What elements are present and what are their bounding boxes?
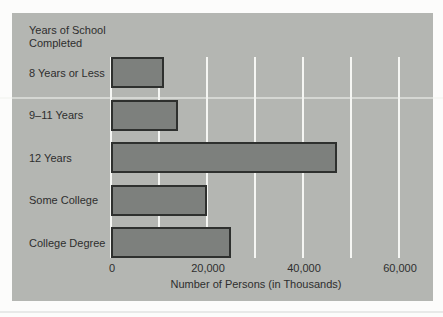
- scan-artifact-line: [0, 311, 443, 313]
- x-tick-label: 20,000: [191, 262, 225, 274]
- x-tick-label: 0: [109, 262, 115, 274]
- category-label: Some College: [29, 194, 98, 206]
- chart-figure: Years of School Completed Number of Pers…: [0, 0, 443, 317]
- plot-area: [111, 57, 401, 258]
- category-label: 12 Years: [29, 152, 72, 164]
- bar: [111, 185, 207, 216]
- category-label: 8 Years or Less: [29, 67, 105, 79]
- x-tick-label: 40,000: [287, 262, 321, 274]
- gridline: [398, 57, 400, 258]
- bar: [111, 57, 164, 88]
- x-axis-title: Number of Persons (in Thousands): [111, 278, 401, 290]
- gridline: [350, 57, 352, 258]
- chart-title: Years of School Completed: [29, 24, 137, 50]
- bar: [111, 142, 337, 173]
- x-tick-label: 60,000: [383, 262, 417, 274]
- bar: [111, 227, 231, 258]
- category-label: 9–11 Years: [29, 109, 83, 121]
- chart-panel: Years of School Completed Number of Pers…: [12, 13, 433, 301]
- category-label: College Degree: [29, 237, 105, 249]
- bar: [111, 100, 178, 131]
